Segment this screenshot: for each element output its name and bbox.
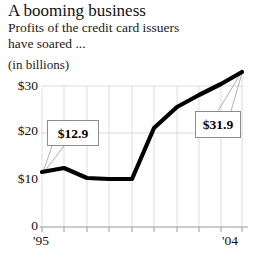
y-axis-label-0: 0 — [2, 219, 38, 233]
x-axis-label-start: '95 — [33, 234, 49, 248]
y-axis-label-30: $30 — [2, 79, 38, 93]
y-axis-label-20: $20 — [2, 124, 38, 138]
chart-figure: A booming business Profits of the credit… — [0, 0, 259, 253]
y-axis-label-10: $10 — [2, 172, 38, 186]
x-axis-label-end: '04 — [222, 234, 238, 248]
data-callout-first-value: $12.9 — [47, 120, 99, 146]
data-callout-last-value: $31.9 — [195, 111, 241, 138]
